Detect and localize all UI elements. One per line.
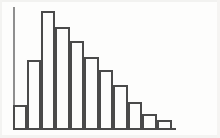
histogram-bar [113,85,128,128]
histogram-bar [41,11,55,128]
histogram-bar [84,57,99,128]
plot-area [0,0,220,138]
histogram-figure [0,0,220,138]
x-axis-baseline [13,128,176,130]
histogram-bar [70,41,84,128]
histogram-bar [142,114,157,128]
histogram-bar [157,120,172,128]
histogram-bar [128,102,142,128]
histogram-bar [13,105,27,128]
histogram-bar [99,70,113,128]
histogram-bar [55,27,70,128]
histogram-bar [27,60,41,128]
